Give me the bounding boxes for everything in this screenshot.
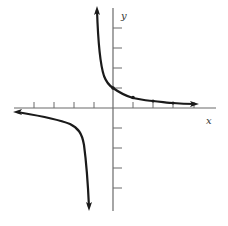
y-axis-label: y bbox=[120, 10, 127, 21]
curve-right-branch bbox=[97, 10, 195, 104]
curve-left-branch bbox=[17, 112, 89, 207]
plot: y x bbox=[0, 0, 228, 226]
x-axis-label: x bbox=[206, 115, 212, 126]
